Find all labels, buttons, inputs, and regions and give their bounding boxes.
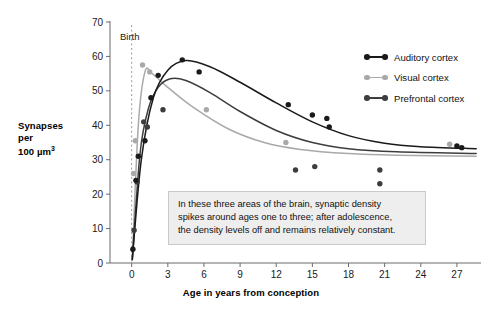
data-point-auditory-cortex [155,73,160,78]
data-point-prefrontal-cortex [312,164,317,169]
data-point-auditory-cortex [196,69,201,74]
y-tick-label: 30 [92,154,104,165]
data-point-auditory-cortex [286,102,291,107]
legend-item-auditory-cortex: Auditory cortex [364,50,464,64]
data-point-visual-cortex [283,140,288,145]
callout-line-2: spikes around ages one to three; after a… [178,212,392,222]
legend: Auditory cortex Visual cortex Prefrontal… [364,50,464,112]
data-point-auditory-cortex [142,138,147,143]
data-point-visual-cortex [204,107,209,112]
legend-dot-right [382,95,388,101]
legend-label: Visual cortex [394,72,449,83]
data-point-auditory-cortex [148,95,153,100]
data-point-auditory-cortex [133,178,138,183]
x-tick-label: 27 [451,269,463,280]
y-tick-label: 10 [92,223,104,234]
data-point-auditory-cortex [310,112,315,117]
y-tick-label: 50 [92,85,104,96]
y-tick-label: 40 [92,120,104,131]
legend-dot-right [382,75,388,81]
data-point-prefrontal-cortex [160,107,165,112]
data-point-visual-cortex [131,171,136,176]
x-tick-label: 3 [165,269,171,280]
y-axis-title: Synapsesper100 µm3 [18,120,63,158]
data-point-auditory-cortex [324,116,329,121]
data-point-prefrontal-cortex [377,181,382,186]
legend-label: Prefrontal cortex [394,93,464,104]
data-point-auditory-cortex [459,145,464,150]
data-point-prefrontal-cortex [131,228,136,233]
legend-swatch-icon [364,53,388,62]
x-tick-label: 0 [129,269,135,280]
callout-line-3: the density levels off and remains relat… [178,225,395,235]
data-point-auditory-cortex [454,143,459,148]
data-point-visual-cortex [147,69,152,74]
data-point-visual-cortex [140,62,145,67]
y-axis-title-line1: Synapses [18,120,63,131]
synaptic-density-chart: 0102030405060700369121518212427 Synapses… [0,0,502,313]
y-tick-label: 60 [92,51,104,62]
y-tick-label: 70 [92,17,104,28]
data-point-prefrontal-cortex [377,167,382,172]
data-point-auditory-cortex [136,154,141,159]
y-tick-label: 20 [92,189,104,200]
data-point-auditory-cortex [327,124,332,129]
legend-item-prefrontal-cortex: Prefrontal cortex [364,91,464,105]
callout-line-1: In these three areas of the brain, synap… [178,199,381,209]
y-tick-label: 0 [97,258,103,269]
x-tick-label: 18 [343,269,355,280]
data-point-visual-cortex [447,142,452,147]
data-point-prefrontal-cortex [141,119,146,124]
birth-marker-label: Birth [120,31,140,42]
x-tick-label: 6 [201,269,207,280]
x-tick-label: 21 [379,269,391,280]
x-axis-title: Age in years from conception [0,287,502,299]
legend-swatch-icon [364,73,388,82]
data-point-prefrontal-cortex [293,167,298,172]
legend-item-visual-cortex: Visual cortex [364,71,464,85]
x-tick-label: 15 [307,269,319,280]
legend-label: Auditory cortex [394,52,458,63]
data-point-prefrontal-cortex [145,124,150,129]
data-point-auditory-cortex [130,247,135,252]
x-tick-label: 9 [237,269,243,280]
legend-swatch-icon [364,94,388,103]
y-axis-title-line3: 100 µm3 [18,146,55,157]
legend-dot-right [382,54,388,60]
data-point-visual-cortex [133,138,138,143]
x-tick-label: 24 [415,269,427,280]
plot-area: 0102030405060700369121518212427 [0,0,502,313]
callout-box: In these three areas of the brain, synap… [168,191,426,245]
y-axis-title-line2: per [18,132,33,143]
data-point-auditory-cortex [180,57,185,62]
callout-text: In these three areas of the brain, synap… [178,198,417,238]
x-tick-label: 12 [271,269,283,280]
